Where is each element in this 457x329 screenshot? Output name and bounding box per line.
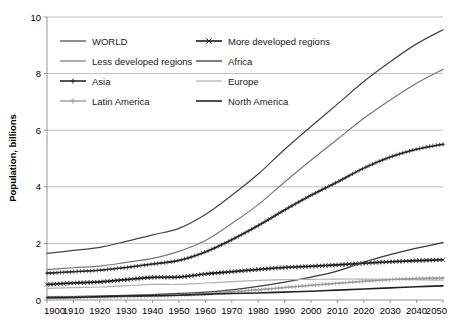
legend-label: Europe	[228, 76, 259, 87]
x-tick-label: 1920	[89, 305, 110, 316]
x-tick-label: 2030	[380, 305, 401, 316]
x-tick-label: 1960	[195, 305, 216, 316]
chart-container: 0246810 19001910192019301940195019601970…	[0, 0, 457, 329]
legend-label: Less developed regions	[92, 56, 193, 67]
x-tick-label: 2000	[300, 305, 321, 316]
x-tick-label: 1950	[168, 305, 189, 316]
y-tick-label: 4	[36, 181, 41, 192]
x-tick-label: 1990	[274, 305, 295, 316]
y-tick-label: 10	[30, 12, 41, 23]
svg-text:Population, billions: Population, billions	[7, 114, 18, 202]
legend-label: More developed regions	[228, 36, 330, 47]
x-tick-label: 2020	[353, 305, 374, 316]
y-tick-label: 0	[36, 295, 41, 306]
y-tick-label: 6	[36, 125, 41, 136]
x-tick-label: 2050	[426, 305, 447, 316]
legend-label: Africa	[228, 56, 253, 67]
y-axis-title: Population, billions	[7, 114, 18, 202]
x-axis-tick-labels: 1900191019201930194019501960197019801990…	[44, 300, 447, 316]
x-tick-label: 1910	[63, 305, 84, 316]
legend-label: North America	[228, 96, 289, 107]
y-tick-label: 8	[36, 68, 41, 79]
legend-label: Latin America	[92, 96, 150, 107]
y-axis-tick-labels: 0246810	[30, 12, 47, 306]
x-tick-label: 1940	[142, 305, 163, 316]
x-tick-label: 1980	[248, 305, 269, 316]
legend-label: WORLD	[92, 36, 128, 47]
x-tick-label: 1930	[116, 305, 137, 316]
population-line-chart: 0246810 19001910192019301940195019601970…	[0, 0, 457, 329]
x-tick-label: 2010	[327, 305, 348, 316]
x-tick-label: 1970	[221, 305, 242, 316]
x-tick-label: 2040	[406, 305, 427, 316]
legend-label: Asia	[92, 76, 111, 87]
y-tick-label: 2	[36, 238, 41, 249]
